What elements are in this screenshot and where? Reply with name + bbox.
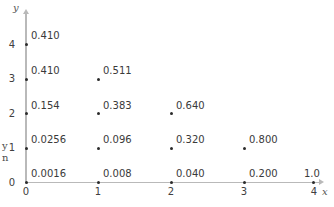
side-note-line-2: n (2, 152, 8, 163)
data-point (243, 147, 246, 150)
data-point-label: 0.096 (103, 134, 132, 145)
data-point (97, 147, 100, 150)
y-axis-label: y (13, 2, 19, 13)
y-tick-label-1: 1 (2, 142, 22, 153)
data-point-label: 0.410 (31, 65, 60, 76)
x-tick-label-4: 4 (304, 186, 324, 197)
data-point-label: 0.0256 (31, 134, 66, 145)
data-point (25, 78, 28, 81)
data-point (170, 181, 173, 184)
data-point-label: 0.200 (249, 168, 278, 179)
x-tick-label-2: 2 (161, 186, 181, 197)
scatter-plot: y x y n 4 3 2 1 0 0 1 2 3 4 0.410 0.410 … (0, 0, 334, 207)
data-point-label: 0.640 (176, 100, 205, 111)
data-point-label: 0.511 (103, 65, 132, 76)
y-axis-arrow-icon (23, 9, 29, 14)
data-point-label: 0.0016 (31, 168, 66, 179)
y-tick-label-3: 3 (2, 73, 22, 84)
data-point (243, 181, 246, 184)
data-point (25, 43, 28, 46)
data-point-label: 0.410 (31, 30, 60, 41)
data-point (25, 181, 28, 184)
data-point-label: 0.008 (103, 168, 132, 179)
data-point-label: 0.320 (176, 134, 205, 145)
data-point-label: 0.800 (249, 134, 278, 145)
data-point (97, 181, 100, 184)
x-tick-label-3: 3 (234, 186, 254, 197)
data-point (97, 112, 100, 115)
y-tick-label-4: 4 (2, 39, 22, 50)
data-point (170, 112, 173, 115)
data-point-label: 1.0 (304, 168, 320, 179)
y-axis-line (25, 14, 27, 183)
data-point (25, 147, 28, 150)
data-point-label: 0.040 (176, 168, 205, 179)
y-tick-label-2: 2 (2, 108, 22, 119)
x-tick-label-0: 0 (16, 186, 36, 197)
x-axis-arrow-icon (319, 179, 324, 185)
data-point (312, 181, 315, 184)
x-tick-label-1: 1 (88, 186, 108, 197)
data-point (97, 78, 100, 81)
data-point (25, 112, 28, 115)
data-point-label: 0.383 (103, 100, 132, 111)
data-point-label: 0.154 (31, 100, 60, 111)
data-point (170, 147, 173, 150)
